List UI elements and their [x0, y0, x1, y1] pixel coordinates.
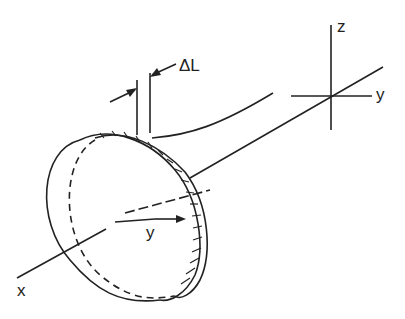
radius-arrowhead [176, 215, 186, 223]
diagram-canvas [0, 0, 405, 319]
disc-rim-inner [95, 135, 207, 297]
delta-l-label: ΔL [179, 57, 200, 74]
z-axis-label: z [337, 18, 346, 35]
profile-curve [152, 93, 273, 138]
disc-rim-outer [80, 134, 200, 300]
x-axis-line [17, 229, 106, 278]
dl-arrowhead-right [150, 68, 161, 77]
rim-hatching [100, 131, 202, 284]
radius-arrow-line [115, 219, 155, 222]
x-axis-far-line [190, 67, 383, 178]
x-axis-label: x [17, 282, 26, 299]
dl-arrowhead-left [126, 88, 137, 97]
y-axis-label: y [376, 86, 385, 103]
radius-y-label: y [146, 224, 155, 241]
